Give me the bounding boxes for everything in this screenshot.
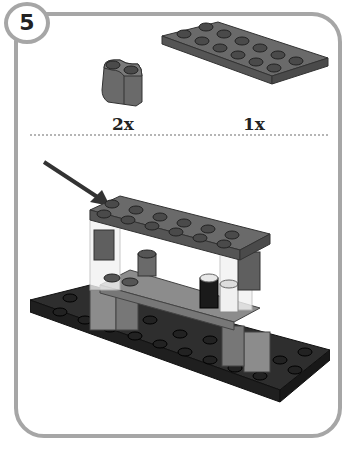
assembly-model-illustration [30, 190, 330, 420]
step-number: 5 [19, 12, 34, 34]
curved-brick-icon [98, 54, 146, 110]
part-quantity-plate: 1x [243, 114, 265, 134]
plate-2x6-icon [160, 20, 330, 86]
parts-divider [30, 134, 328, 136]
step-number-badge: 5 [4, 2, 50, 44]
part-quantity-curved-brick: 2x [112, 114, 134, 134]
